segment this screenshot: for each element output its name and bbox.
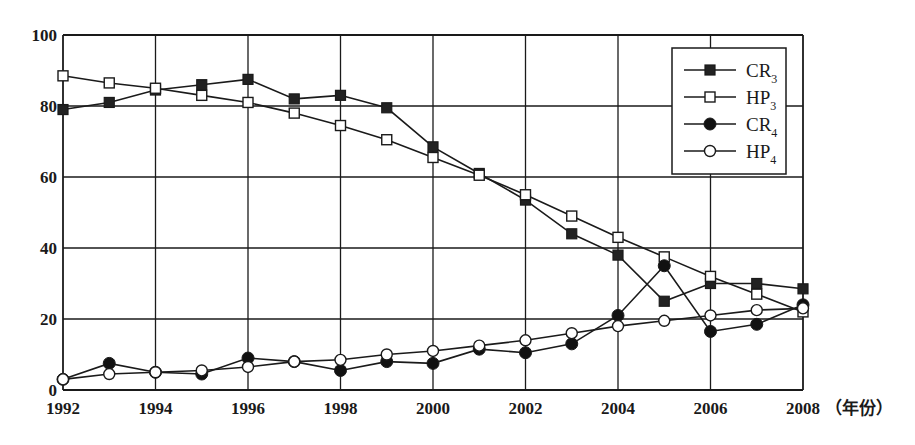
data-point-marker: [151, 83, 161, 93]
x-tick-label: 2006: [694, 399, 728, 418]
data-point-marker: [659, 315, 670, 326]
data-point-marker: [567, 211, 577, 221]
data-point-marker: [381, 349, 392, 360]
data-point-marker: [705, 310, 716, 321]
data-point-marker: [612, 309, 624, 321]
y-tick-label: 0: [49, 381, 58, 400]
line-chart: 0204060801001992199419961998200020022004…: [0, 0, 915, 445]
data-point-marker: [104, 97, 114, 107]
data-point-marker: [520, 335, 531, 346]
data-point-marker: [567, 229, 577, 239]
y-tick-label: 40: [40, 239, 57, 258]
data-point-marker: [751, 318, 763, 330]
data-point-marker: [566, 328, 577, 339]
data-point-marker: [705, 325, 717, 337]
data-point-marker: [428, 345, 439, 356]
data-point-marker: [336, 121, 346, 131]
data-point-marker: [336, 90, 346, 100]
data-point-marker: [798, 284, 808, 294]
data-point-marker: [659, 296, 669, 306]
data-point-marker: [243, 74, 253, 84]
data-point-marker: [103, 357, 115, 369]
y-tick-label: 100: [32, 26, 58, 45]
data-point-marker: [613, 250, 623, 260]
data-point-marker: [613, 321, 624, 332]
data-point-marker: [58, 105, 68, 115]
data-point-marker: [752, 289, 762, 299]
filled-square-icon: [705, 65, 715, 75]
data-point-marker: [428, 142, 438, 152]
legend: CR3HP3CR4HP4: [672, 48, 786, 174]
y-tick-label: 20: [40, 310, 57, 329]
data-point-marker: [289, 94, 299, 104]
open-circle-icon: [705, 146, 716, 157]
data-point-marker: [382, 103, 392, 113]
x-tick-label: 2002: [509, 399, 543, 418]
data-point-marker: [474, 340, 485, 351]
data-point-marker: [243, 361, 254, 372]
data-point-marker: [658, 260, 670, 272]
data-point-marker: [521, 190, 531, 200]
filled-circle-icon: [704, 118, 716, 130]
x-tick-label: 1992: [46, 399, 80, 418]
data-point-marker: [427, 357, 439, 369]
data-point-marker: [474, 170, 484, 180]
data-point-marker: [104, 369, 115, 380]
data-point-marker: [58, 374, 69, 385]
data-point-marker: [706, 271, 716, 281]
data-point-marker: [566, 338, 578, 350]
x-tick-label: 2008: [786, 399, 820, 418]
data-point-marker: [104, 78, 114, 88]
data-point-marker: [289, 108, 299, 118]
data-point-marker: [197, 90, 207, 100]
data-point-marker: [428, 152, 438, 162]
open-square-icon: [705, 92, 715, 102]
x-tick-label: 2000: [416, 399, 450, 418]
data-point-marker: [752, 279, 762, 289]
data-point-marker: [150, 367, 161, 378]
data-point-marker: [196, 365, 207, 376]
x-tick-label: 1994: [139, 399, 174, 418]
data-point-marker: [243, 97, 253, 107]
data-point-marker: [613, 232, 623, 242]
data-point-marker: [798, 303, 809, 314]
data-point-marker: [382, 135, 392, 145]
data-point-marker: [335, 354, 346, 365]
x-axis-label: （年份）: [825, 398, 893, 418]
x-tick-label: 1998: [324, 399, 358, 418]
data-point-marker: [520, 347, 532, 359]
data-point-marker: [58, 71, 68, 81]
y-tick-label: 60: [40, 168, 57, 187]
data-point-marker: [751, 305, 762, 316]
data-point-marker: [335, 364, 347, 376]
data-point-marker: [289, 356, 300, 367]
x-tick-label: 2004: [601, 399, 636, 418]
data-point-marker: [197, 80, 207, 90]
y-tick-label: 80: [40, 97, 57, 116]
x-tick-label: 1996: [231, 399, 265, 418]
